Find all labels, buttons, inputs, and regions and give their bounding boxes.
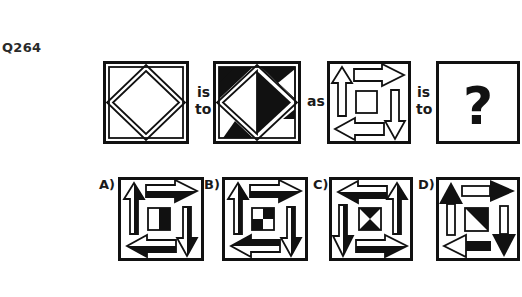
option-b-figure[interactable] [222, 177, 308, 261]
connector-is-1: is [197, 84, 210, 101]
option-a-label: A) [99, 177, 115, 192]
option-d-label: D) [418, 177, 435, 192]
figure-3-arrows-outline [327, 61, 411, 144]
option-c-figure[interactable] [329, 177, 413, 261]
option-b-label: B) [204, 177, 220, 192]
option-c-label: C) [313, 177, 328, 192]
figure-2-diamond-shaded [213, 61, 301, 144]
connector-is-2: is [417, 84, 430, 101]
question-number: Q264 [2, 40, 41, 55]
figure-4-unknown: ? [436, 61, 520, 144]
question-mark-icon: ? [463, 76, 493, 136]
connector-as: as [307, 93, 325, 110]
option-a-figure[interactable] [118, 177, 204, 261]
connector-to-2: to [416, 101, 432, 118]
option-d-figure[interactable] [436, 177, 520, 261]
connector-to-1: to [195, 101, 211, 118]
figure-1-diamond-outline [103, 61, 189, 144]
